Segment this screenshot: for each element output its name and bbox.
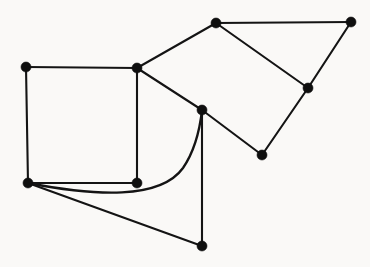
graph-vertex-bottom-spur — [197, 241, 207, 251]
graph-vertex-center-hub — [197, 105, 207, 115]
graph-vertex-square-top-left — [21, 62, 31, 72]
graph-edge-v7-v8 — [216, 22, 351, 23]
graph-vertex-far-right-top — [346, 17, 356, 27]
graph-figure — [0, 0, 370, 267]
graph-vertex-square-top-right — [132, 63, 142, 73]
graph-edge-v1-v2 — [26, 67, 137, 68]
graph-vertex-square-bottom-left — [23, 178, 33, 188]
graph-vertex-lower-right — [257, 150, 267, 160]
graph-vertex-upper-apex — [211, 18, 221, 28]
graph-vertex-square-bottom-right — [132, 178, 142, 188]
graph-canvas — [0, 0, 370, 267]
graph-vertex-right-middle — [303, 83, 313, 93]
